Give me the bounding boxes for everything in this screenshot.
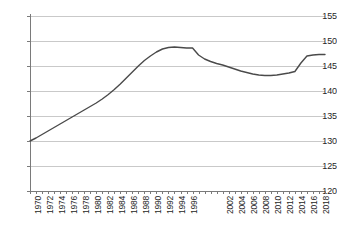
x-tick-mark-2006 (247, 191, 248, 194)
x-tick-mark-1974 (54, 191, 55, 194)
x-tick-label-1996: 1996 (190, 196, 199, 214)
x-tick-mark-2012 (283, 191, 284, 194)
x-tick-mark-1970 (30, 191, 31, 194)
x-tick-mark-1976 (66, 191, 67, 194)
x-tick-label-1980: 1980 (94, 196, 103, 214)
x-tick-mark-2011 (277, 191, 278, 194)
x-tick-mark-2010 (271, 191, 272, 194)
x-tick-mark-2014 (295, 191, 296, 194)
x-tick-label-2014: 2014 (298, 196, 307, 214)
y-tick-mark-150 (27, 41, 30, 42)
x-tick-mark-1983 (108, 191, 109, 194)
x-tick-mark-1984 (114, 191, 115, 194)
x-tick-mark-1980 (90, 191, 91, 194)
y-tick-label-135: 135 (311, 112, 337, 121)
y-tick-label-145: 145 (311, 62, 337, 71)
x-tick-label-1988: 1988 (142, 196, 151, 214)
x-tick-label-2012: 2012 (286, 196, 295, 214)
x-tick-mark-1987 (132, 191, 133, 194)
y-tick-mark-145 (27, 66, 30, 67)
x-tick-mark-1977 (72, 191, 73, 194)
gridline-130 (30, 141, 325, 142)
x-tick-mark-1991 (156, 191, 157, 194)
y-tick-label-140: 140 (311, 87, 337, 96)
y-tick-mark-140 (27, 91, 30, 92)
x-tick-mark-1990 (150, 191, 151, 194)
gridline-150 (30, 41, 325, 42)
x-tick-label-2002: 2002 (226, 196, 235, 214)
gridline-145 (30, 66, 325, 67)
x-tick-mark-1972 (42, 191, 43, 194)
y-tick-mark-125 (27, 166, 30, 167)
x-tick-mark-1992 (162, 191, 163, 194)
y-tick-label-120: 120 (311, 187, 337, 196)
x-tick-mark-1995 (181, 191, 182, 194)
x-tick-mark-2008 (259, 191, 260, 194)
x-tick-mark-1989 (144, 191, 145, 194)
x-tick-mark-2003 (229, 191, 230, 194)
x-tick-mark-1981 (96, 191, 97, 194)
x-tick-label-1982: 1982 (106, 196, 115, 214)
gridline-125 (30, 166, 325, 167)
x-tick-mark-1994 (174, 191, 175, 194)
x-tick-label-1992: 1992 (166, 196, 175, 214)
x-tick-mark-1993 (168, 191, 169, 194)
x-tick-label-2016: 2016 (310, 196, 319, 214)
y-tick-label-150: 150 (311, 37, 337, 46)
x-tick-label-2004: 2004 (238, 196, 247, 214)
x-tick-label-1994: 1994 (178, 196, 187, 214)
x-tick-mark-2001 (217, 191, 218, 194)
x-tick-mark-2007 (253, 191, 254, 194)
x-tick-mark-2002 (223, 191, 224, 194)
x-tick-mark-1971 (36, 191, 37, 194)
x-tick-mark-1988 (138, 191, 139, 194)
x-tick-label-1990: 1990 (154, 196, 163, 214)
line-chart: 1201251301351401451501551970197219741976… (0, 0, 337, 233)
x-tick-mark-1975 (60, 191, 61, 194)
y-tick-mark-130 (27, 141, 30, 142)
x-tick-mark-1979 (84, 191, 85, 194)
x-tick-mark-1996 (187, 191, 188, 194)
x-tick-mark-2009 (265, 191, 266, 194)
y-axis-line (30, 14, 31, 193)
x-tick-mark-1999 (205, 191, 206, 194)
gridline-140 (30, 91, 325, 92)
x-tick-mark-2004 (235, 191, 236, 194)
x-tick-label-1976: 1976 (70, 196, 79, 214)
y-tick-label-130: 130 (311, 137, 337, 146)
x-tick-mark-2000 (211, 191, 212, 194)
x-tick-label-1978: 1978 (82, 196, 91, 214)
y-tick-mark-135 (27, 116, 30, 117)
gridline-135 (30, 116, 325, 117)
x-tick-label-2010: 2010 (274, 196, 283, 214)
plot-area (30, 16, 325, 191)
x-tick-mark-2018 (319, 191, 320, 194)
x-tick-mark-1982 (102, 191, 103, 194)
x-tick-label-1972: 1972 (46, 196, 55, 214)
x-tick-label-1986: 1986 (130, 196, 139, 214)
x-tick-label-1984: 1984 (118, 196, 127, 214)
x-tick-label-1974: 1974 (58, 196, 67, 214)
x-tick-label-1970: 1970 (34, 196, 43, 214)
y-tick-mark-155 (27, 16, 30, 17)
x-tick-mark-1985 (120, 191, 121, 194)
x-axis-line (29, 191, 326, 192)
x-tick-mark-2019 (325, 191, 326, 194)
y-tick-label-125: 125 (311, 162, 337, 171)
x-tick-mark-2013 (289, 191, 290, 194)
x-tick-mark-1998 (199, 191, 200, 194)
y-tick-label-155: 155 (311, 12, 337, 21)
x-tick-mark-1997 (193, 191, 194, 194)
gridline-155 (30, 16, 325, 17)
x-tick-mark-2005 (241, 191, 242, 194)
x-tick-mark-2017 (313, 191, 314, 194)
x-tick-label-2006: 2006 (250, 196, 259, 214)
x-tick-mark-1973 (48, 191, 49, 194)
x-tick-label-2008: 2008 (262, 196, 271, 214)
x-tick-mark-2015 (301, 191, 302, 194)
x-tick-mark-1978 (78, 191, 79, 194)
x-tick-mark-1986 (126, 191, 127, 194)
x-tick-label-2018: 2018 (322, 196, 331, 214)
x-tick-mark-2016 (307, 191, 308, 194)
